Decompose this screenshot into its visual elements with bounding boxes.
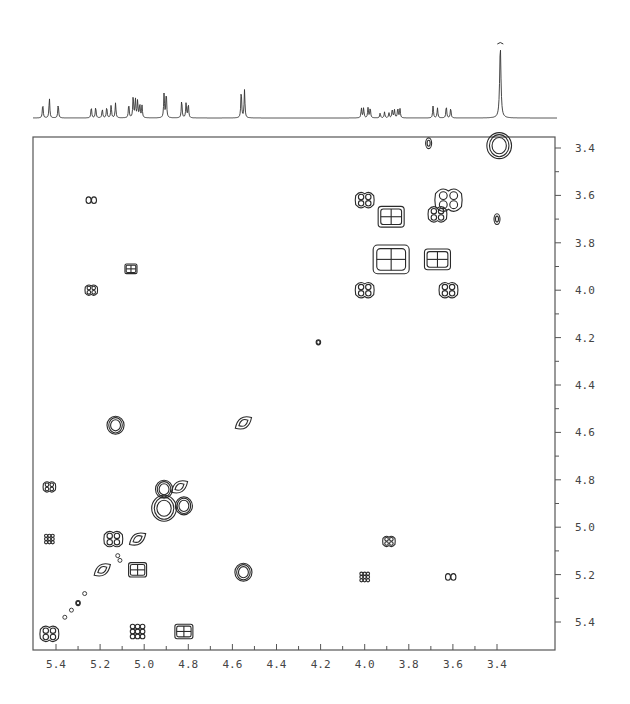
y-tick-label: 4.8: [575, 474, 595, 487]
cross-peak: [45, 534, 55, 544]
cross-peak: [107, 416, 124, 434]
cross-peak: [445, 574, 455, 581]
cross-peak: [373, 245, 409, 274]
y-tick-label: 4.2: [575, 332, 595, 345]
contour-peaks: [40, 133, 512, 642]
x-tick-label: 5.4: [46, 658, 66, 671]
cosy-figure: 5.45.25.04.84.64.44.24.03.83.63.4 3.43.6…: [0, 0, 630, 704]
x-tick-label: 4.4: [267, 658, 287, 671]
diagonal-peak: [116, 554, 120, 558]
cross-peak: [378, 206, 404, 227]
x-tick-label: 3.6: [443, 658, 463, 671]
1d-spectrum-projection: [33, 43, 557, 119]
diagonal-peak: [69, 608, 73, 612]
y-tick-label: 3.8: [575, 237, 595, 250]
spectrum-trace: [33, 50, 557, 118]
cross-peak: [40, 626, 59, 641]
y-tick-label: 3.6: [575, 189, 595, 202]
peak-clip-mark: [497, 43, 503, 45]
y-tick-label: 5.2: [575, 569, 595, 582]
cross-peak: [129, 533, 145, 545]
cross-peak: [355, 282, 374, 297]
cross-peak: [235, 563, 252, 581]
y-axis-ppm: 3.43.63.84.04.24.44.64.85.05.25.4: [555, 142, 595, 629]
x-tick-label: 3.8: [399, 658, 419, 671]
cross-peak: [130, 624, 145, 639]
diagonal-peak: [63, 615, 67, 619]
cross-peak: [86, 197, 96, 204]
cross-peak: [171, 481, 187, 493]
x-tick-label: 5.0: [134, 658, 154, 671]
cross-peak: [94, 564, 110, 576]
cross-peak: [85, 285, 98, 295]
cross-peak: [439, 282, 458, 297]
y-tick-label: 4.4: [575, 379, 595, 392]
diagonal-peak: [118, 558, 122, 562]
y-tick-label: 4.0: [575, 284, 595, 297]
x-tick-label: 4.6: [222, 658, 242, 671]
cross-peak: [43, 482, 56, 492]
cross-peak: [129, 563, 147, 577]
cross-peak: [494, 214, 500, 225]
cross-peak: [424, 249, 450, 270]
diagonal-peak: [83, 592, 87, 596]
plot-frame: [33, 137, 555, 650]
x-tick-label: 4.0: [355, 658, 375, 671]
x-axis-ppm: 5.45.25.04.84.64.44.24.03.83.63.4: [46, 644, 507, 671]
x-tick-label: 4.2: [311, 658, 331, 671]
y-tick-label: 5.0: [575, 521, 595, 534]
y-tick-label: 3.4: [575, 142, 595, 155]
cross-peak: [235, 417, 251, 429]
cross-peak: [360, 572, 370, 582]
cross-peak: [316, 340, 321, 345]
x-tick-label: 4.8: [178, 658, 198, 671]
cross-peak: [125, 264, 137, 274]
cross-peak: [104, 531, 123, 546]
cross-peak: [76, 600, 81, 605]
cross-peak: [355, 192, 374, 207]
cross-peak: [383, 536, 396, 546]
cross-peak: [175, 497, 192, 515]
cross-peak: [426, 138, 432, 149]
y-tick-label: 5.4: [575, 616, 595, 629]
cross-peak: [435, 189, 462, 211]
y-tick-label: 4.6: [575, 426, 595, 439]
x-tick-label: 5.2: [90, 658, 110, 671]
cross-peak: [175, 624, 193, 638]
x-tick-label: 3.4: [487, 658, 507, 671]
cross-peak: [152, 495, 177, 521]
